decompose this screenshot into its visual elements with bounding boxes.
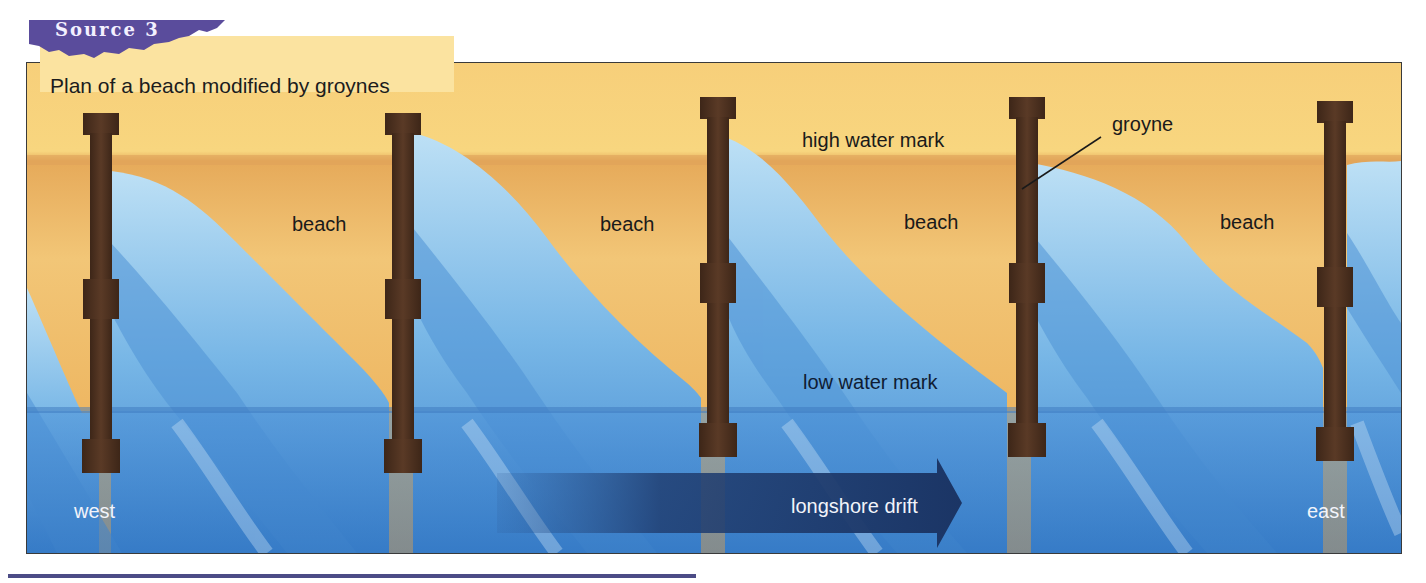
beach-label-2: beach bbox=[600, 213, 655, 236]
diagram-caption: Plan of a beach modified by groynes bbox=[50, 74, 390, 98]
beach-groyne-diagram: beach beach beach beach high water mark … bbox=[26, 62, 1402, 554]
west-label: west bbox=[74, 500, 115, 523]
low-water-mark-label: low water mark bbox=[803, 371, 937, 394]
beach-label-1: beach bbox=[292, 213, 347, 236]
longshore-drift-label: longshore drift bbox=[791, 495, 918, 518]
source-label: Source 3 bbox=[55, 19, 160, 40]
east-label: east bbox=[1307, 500, 1345, 523]
high-water-mark-label: high water mark bbox=[802, 129, 944, 152]
groyne-label: groyne bbox=[1112, 113, 1173, 136]
diagram-graphic bbox=[27, 63, 1401, 553]
beach-label-4: beach bbox=[1220, 211, 1275, 234]
section-divider bbox=[8, 574, 696, 578]
beach-label-3: beach bbox=[904, 211, 959, 234]
